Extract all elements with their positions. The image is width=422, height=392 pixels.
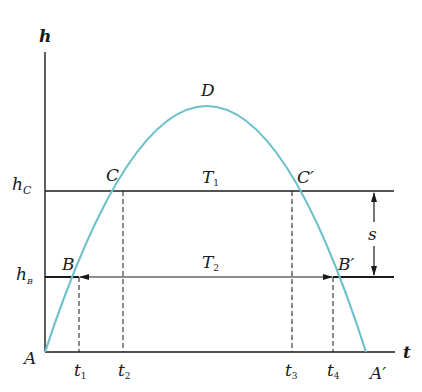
t4-tick-label: t4: [327, 360, 340, 381]
point-c-prime-label: C′: [297, 167, 314, 187]
hb-label: hB: [16, 264, 33, 286]
point-b-label: B: [61, 254, 75, 274]
t1-interval-label: T1: [202, 167, 219, 188]
t2-tick-label: t2: [118, 360, 131, 381]
y-axis-label: h: [39, 26, 51, 46]
height-time-diagram: h t hC hB A A′ B B′ C C′ D T1 T2 s t1 t2…: [0, 0, 422, 392]
point-a-label: A: [22, 348, 36, 368]
point-c-label: C: [106, 165, 119, 185]
height-curve: [45, 106, 366, 352]
point-a-prime-label: A′: [368, 363, 386, 383]
point-d-label: D: [200, 80, 215, 100]
s-label: s: [368, 224, 377, 244]
t2-interval-label: T2: [202, 252, 219, 273]
t1-tick-label: t1: [74, 360, 87, 381]
point-b-prime-label: B′: [337, 254, 354, 274]
t3-tick-label: t3: [285, 360, 298, 381]
x-axis-label: t: [403, 342, 411, 362]
hc-label: hC: [12, 174, 32, 197]
